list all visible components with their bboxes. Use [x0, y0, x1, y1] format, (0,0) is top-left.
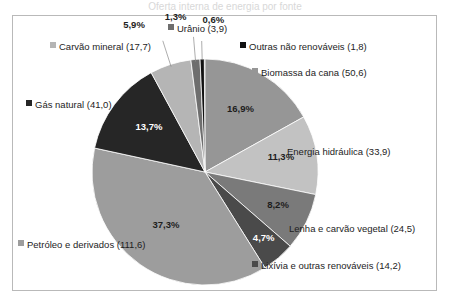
legend-swatch-icon	[18, 240, 24, 246]
legend-label: Petróleo e derivados (111,6)	[27, 239, 145, 250]
legend-item: Outras não renováveis (1,8)	[240, 40, 367, 52]
slice-percent-label: 37,3%	[153, 219, 180, 230]
legend-label: Gás natural (41,0)	[35, 99, 112, 110]
slice-percent-label: 5,9%	[123, 19, 145, 30]
slice-percent-label: 13,7%	[136, 121, 163, 132]
leader-line	[163, 41, 171, 67]
legend-label: Lixívia e outras renováveis (14,2)	[261, 260, 401, 271]
legend-swatch-icon	[50, 42, 56, 48]
legend-label: Lenha e carvão vegetal (24,5)	[289, 223, 415, 234]
slice-percent-label: 1,3%	[165, 11, 187, 22]
legend-swatch-icon	[278, 147, 284, 153]
slice-percent-label: 16,9%	[227, 103, 254, 114]
legend-swatch-icon	[168, 24, 174, 30]
legend-item: Energia hidráulica (33,9)	[278, 145, 391, 157]
legend-swatch-icon	[280, 224, 286, 230]
pie-slices	[92, 59, 318, 285]
legend-item: Carvão mineral (17,7)	[50, 40, 151, 52]
slice-percent-label: 8,2%	[267, 199, 289, 210]
legend-item: Gás natural (41,0)	[26, 98, 112, 110]
legend-swatch-icon	[252, 68, 258, 74]
legend-item: Petróleo e derivados (111,6)	[18, 238, 145, 250]
legend-item: Lixívia e outras renováveis (14,2)	[252, 259, 401, 271]
leader-line	[202, 41, 203, 60]
legend-swatch-icon	[26, 100, 32, 106]
legend-item: Biomassa da cana (50,6)	[252, 66, 367, 78]
leader-line	[194, 37, 196, 62]
legend-label: Urânio (3,9)	[177, 23, 227, 34]
legend-label: Carvão mineral (17,7)	[59, 41, 151, 52]
legend-label: Outras não renováveis (1,8)	[249, 41, 367, 52]
legend-label: Biomassa da cana (50,6)	[261, 67, 367, 78]
legend-item: Lenha e carvão vegetal (24,5)	[280, 222, 415, 234]
legend-swatch-icon	[252, 261, 258, 267]
legend-label: Energia hidráulica (33,9)	[287, 146, 391, 157]
legend-swatch-icon	[240, 42, 246, 48]
slice-percent-label: 4,7%	[253, 232, 275, 243]
legend-item: Urânio (3,9)	[168, 22, 227, 34]
